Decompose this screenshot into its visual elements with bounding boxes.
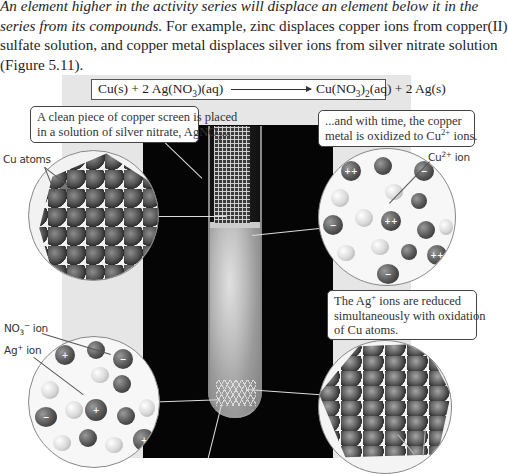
water-molecule (65, 401, 83, 419)
ag-ion: + (133, 429, 155, 451)
leader-cu-circle (158, 216, 226, 217)
molecule (417, 221, 435, 239)
intro-line-2: series from its compounds. For example, … (0, 16, 490, 36)
ag-atoms-zoom (318, 340, 452, 474)
water-molecule (139, 399, 155, 417)
molecule (374, 157, 392, 175)
label-cu-atoms: Cu atoms (3, 153, 51, 165)
no3-ion: − (35, 407, 57, 427)
water-molecule (105, 437, 123, 453)
water-molecule (337, 245, 355, 261)
label-ag-ion: Ag+ ion (4, 344, 41, 356)
reaction-arrow-icon (231, 89, 311, 90)
ag-lattice (319, 341, 451, 473)
water-molecule (355, 209, 373, 227)
callout-reduced: The Ag+ ions are reduced simultaneously … (327, 290, 477, 340)
cu2-ion: ++ (381, 211, 401, 231)
reaction-equation: Cu(s) + 2 Ag(NO3)(aq) Cu(NO3)2(aq) + 2 A… (91, 79, 386, 100)
callout-oxidized: ...and with time, the copper metal is ox… (318, 110, 475, 147)
intro-line-3: sulfate solution, and copper metal displ… (0, 35, 490, 55)
cu2-ion: ++ (341, 161, 361, 181)
molecule (79, 429, 97, 447)
water-molecule (331, 189, 349, 207)
intro-line-4: (Figure 5.11). (0, 55, 490, 75)
water-molecule (371, 239, 389, 255)
solution-zoom-cu2: ++ − − ++ ++ − (318, 148, 456, 286)
ag-ion: + (55, 345, 75, 365)
molecule (401, 244, 417, 260)
molecule (113, 375, 131, 393)
cu2-ion: ++ (427, 245, 447, 265)
ag-ion: + (85, 399, 107, 421)
molecule (117, 407, 135, 425)
water-molecule (41, 381, 59, 399)
molecule (411, 193, 427, 209)
intro-line-1: An element higher in the activity series… (0, 0, 490, 16)
callout-copper-screen: A clean piece of copper screen is placed… (30, 106, 199, 143)
no3-ion: − (113, 349, 133, 369)
anion: − (377, 264, 399, 284)
label-cu2-ion: Cu2+ ion (428, 151, 470, 163)
silver-crystals (216, 380, 256, 406)
anion: − (323, 215, 343, 235)
solution-zoom-ag: + − − + + (28, 336, 160, 468)
water-molecule (53, 435, 71, 451)
anion: − (414, 161, 434, 181)
water-molecule (439, 219, 453, 235)
intro-paragraph: An element higher in the activity series… (0, 0, 490, 74)
water-molecule (91, 367, 109, 383)
